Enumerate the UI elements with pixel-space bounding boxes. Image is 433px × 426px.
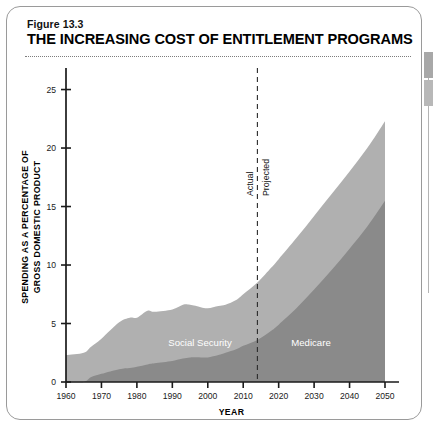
x-axis-title: YEAR (219, 407, 245, 417)
y-axis-title-line: SPENDING AS A PERCENTAGE OF (20, 150, 30, 304)
x-tick-label: 1960 (56, 391, 75, 401)
x-tick-label: 2030 (305, 391, 324, 401)
entitlement-spending-area-chart: ActualProjected 051015202519601970198019… (0, 0, 433, 426)
y-tick-label: 0 (51, 377, 56, 387)
y-axis-title-line: GROSS DOMESTIC PRODUCT (32, 160, 42, 293)
y-tick-label: 20 (46, 143, 56, 153)
x-tick-label: 2010 (234, 391, 253, 401)
y-tick-label: 25 (46, 85, 56, 95)
series-label-medicare: Medicare (291, 337, 330, 348)
x-tick-label: 1990 (163, 391, 182, 401)
divider-label-actual: Actual (245, 172, 255, 196)
y-tick-label: 15 (46, 202, 56, 212)
x-tick-label: 2000 (198, 391, 217, 401)
y-tick-label: 10 (46, 260, 56, 270)
divider-label-projected: Projected (261, 159, 271, 196)
x-tick-label: 2050 (375, 391, 394, 401)
series-label-social-security: Social Security (168, 337, 232, 348)
x-tick-label: 1970 (92, 391, 111, 401)
x-tick-label: 2020 (269, 391, 288, 401)
y-tick-label: 5 (51, 319, 56, 329)
x-tick-label: 2040 (340, 391, 359, 401)
x-tick-label: 1980 (127, 391, 146, 401)
